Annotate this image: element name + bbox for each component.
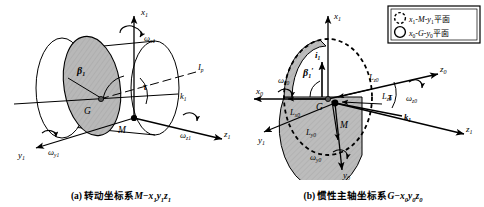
axis-label-y1: y1 [17,150,25,161]
caption-a-sub3: 1 [168,196,171,203]
omega-y1-label: ωy1 [48,147,59,158]
caption-b: (b) 惯性主轴坐标系G−x0y0z0 [242,188,484,203]
axis-label-z1: z1 [223,129,231,140]
omega-z0-label: ωz0 [406,93,417,104]
point-M-label: M [339,120,349,130]
point-G-label: G [316,102,323,112]
panel-b: x1 i1 x0 ωx0 y0 ωy0 [242,0,484,180]
omega-x1-label: ωx1 [144,33,155,44]
figure-root: x1 ωx1 y1 ωy1 z1 [0,0,484,207]
panel-b-drawing: x1 i1 x0 ωx0 y0 ωy0 [242,0,484,180]
point-M-label: M [117,125,127,135]
omega-x1-arrow: ωx1 [120,26,155,44]
axis-label-x1: x1 [333,11,341,22]
axis-label-z0: z0 [439,64,447,75]
caption-b-system: G−x [387,191,404,201]
caption-a: (a) 转动坐标系M−x1y1z1 [0,188,242,203]
angle-beta1-prime: β1′ [302,67,320,97]
Ip-label: Ip [197,62,204,73]
omega-z1-arrow: ωz1 [180,113,197,141]
k1-label: k1 [180,91,187,102]
i1-label: i1 [315,50,321,61]
beta1-prime-label: β1′ [302,67,313,79]
tau-label: τ [388,92,393,102]
axis-x1: x1 [328,11,341,100]
plane-legend: x1-M-y1平面 x0-G-y0平面 [388,6,480,43]
axis-label-x1: x1 [140,7,148,18]
caption-b-sub3: 0 [419,196,422,203]
angle-tau: τ [388,82,396,108]
omega-z0-arrow: ωz0 [406,80,422,104]
k1-label: k1 [404,112,411,123]
Lz0-upper-label: Lz0 [368,72,379,83]
caption-b-text: 惯性主轴坐标系 [317,191,387,201]
axis-label-y1: y1 [257,135,265,146]
vector-i1: i1 [315,50,322,97]
point-G-label: G [84,106,91,116]
axis-label-x0: x0 [255,86,263,97]
panel-a: x1 ωx1 y1 ωy1 z1 [0,0,242,180]
axis-label-z1: z1 [465,124,473,135]
caption-a-text: 转动坐标系 [84,191,134,201]
caption-a-system: M−x [134,191,153,201]
panel-a-drawing: x1 ωx1 y1 ωy1 z1 [0,0,242,180]
caption-a-prefix: (a) [71,191,82,201]
caption-b-prefix: (b) [303,191,315,201]
